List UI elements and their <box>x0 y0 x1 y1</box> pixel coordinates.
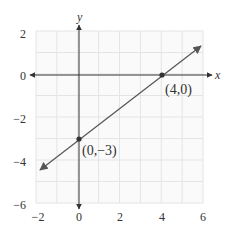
y-tick-label: −4 <box>13 155 26 169</box>
point-y-intercept <box>76 136 81 141</box>
y-intercept-label: (0,−3) <box>82 143 117 159</box>
y-tick-label: 2 <box>20 27 26 41</box>
coordinate-plane: x y 2 0 −2 −4 −6 −2 0 2 4 6 (4,0) (0,−3) <box>0 0 231 236</box>
x-tick-label: 6 <box>200 210 206 224</box>
x-tick-label: 4 <box>159 210 165 224</box>
x-tick-label: −2 <box>32 210 45 224</box>
y-tick-label: 0 <box>20 69 26 83</box>
x-tick-label: 0 <box>76 210 82 224</box>
x-axis-label: x <box>214 68 221 82</box>
y-axis-label: y <box>76 10 83 24</box>
x-intercept-label: (4,0) <box>165 82 192 98</box>
x-tick-label: 2 <box>117 210 123 224</box>
y-tick-label: −6 <box>13 198 26 212</box>
point-x-intercept <box>159 72 164 77</box>
y-tick-label: −2 <box>13 112 26 126</box>
